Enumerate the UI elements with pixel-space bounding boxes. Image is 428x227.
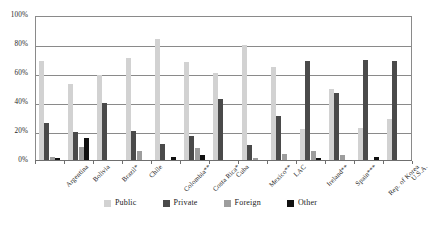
bar-private — [160, 144, 165, 161]
bar-public — [271, 67, 276, 161]
legend-item[interactable]: Other — [287, 199, 317, 207]
bar-group — [325, 16, 354, 161]
legend-item[interactable]: Foreign — [224, 199, 261, 207]
x-axis-category-label: Bolivia — [91, 163, 111, 183]
y-tick-label: 60% — [15, 70, 28, 77]
x-axis-category-label: Spain*** — [354, 163, 378, 187]
legend-label: Private — [174, 199, 198, 207]
bar-private — [305, 61, 310, 161]
bar-private — [218, 99, 223, 161]
legend-label: Foreign — [235, 199, 261, 207]
legend-swatch-icon — [287, 200, 294, 207]
bar-public — [126, 58, 131, 161]
x-axis-category-label: Brazil* — [120, 163, 140, 183]
x-axis-category-label: Ireland** — [325, 163, 349, 187]
chart-legend: PublicPrivateForeignOther — [0, 196, 421, 210]
bar-group — [238, 16, 267, 161]
bar-public — [155, 39, 160, 161]
legend-label: Other — [298, 199, 317, 207]
bar-public — [213, 73, 218, 161]
x-axis-category-label: LAC — [292, 163, 307, 178]
bar-private — [73, 132, 78, 161]
bar-public — [39, 61, 44, 161]
x-axis-category-label: Costa Rica* — [211, 163, 240, 192]
bar-private — [102, 103, 107, 161]
y-tick-label: 20% — [15, 128, 28, 135]
legend-item[interactable]: Private — [163, 199, 198, 207]
bar-public — [97, 75, 102, 161]
x-axis-category-label: Colombia** — [182, 163, 212, 193]
bar-private — [276, 116, 281, 161]
bar-group — [122, 16, 151, 161]
legend-swatch-icon — [224, 200, 231, 207]
bar-public — [387, 119, 392, 161]
legend-swatch-icon — [163, 200, 170, 207]
bar-public — [358, 128, 363, 161]
bar-other — [84, 138, 89, 161]
legend-label: Public — [115, 199, 137, 207]
legend-swatch-icon — [104, 200, 111, 207]
bar-private — [247, 145, 252, 161]
x-axis-category-label: Argentina — [64, 163, 89, 188]
bar-group — [383, 16, 412, 161]
bar-group — [354, 16, 383, 161]
bar-group — [93, 16, 122, 161]
y-tick-label: 40% — [15, 99, 28, 106]
bar-group — [296, 16, 325, 161]
bar-public — [242, 45, 247, 161]
bars-layer — [35, 16, 412, 161]
x-axis-category-label: Chile — [147, 163, 163, 179]
bar-group — [35, 16, 64, 161]
y-tick-label: 80% — [15, 41, 28, 48]
bar-public — [300, 129, 305, 161]
bar-private — [189, 136, 194, 161]
bar-public — [184, 62, 189, 161]
bar-public — [68, 84, 73, 161]
bar-group — [180, 16, 209, 161]
bar-private — [334, 93, 339, 161]
bar-foreign — [79, 147, 84, 162]
x-axis-category-label: Mexico** — [267, 163, 292, 188]
bar-private — [363, 60, 368, 162]
bar-private — [44, 123, 49, 161]
bar-private — [131, 131, 136, 161]
bar-private — [392, 61, 397, 161]
bar-public — [329, 89, 334, 162]
bar-group — [209, 16, 238, 161]
bar-group — [64, 16, 93, 161]
legend-item[interactable]: Public — [104, 199, 137, 207]
y-tick-label: 100% — [11, 12, 28, 19]
bar-group — [151, 16, 180, 161]
bar-group — [267, 16, 296, 161]
